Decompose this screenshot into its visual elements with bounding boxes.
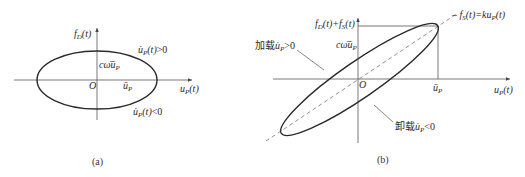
x-axis-label-a: uP(t) <box>180 83 199 96</box>
panel-b: fD(t)+fS(t) – fS(t)=kuP(t) cω̄ūP 加载u̇P>0… <box>255 9 513 166</box>
origin-label-a: O <box>89 80 96 91</box>
unloading-leader-line <box>374 105 393 122</box>
loading-leader-line <box>297 50 324 70</box>
hysteresis-figure: fD(t) u̇P(t)>0 cω̄ūP O ūP uP(t) u̇P(t)<0… <box>0 0 525 177</box>
unloading-label: 卸载u̇P<0 <box>395 120 435 134</box>
loading-label: 加载u̇P>0 <box>255 40 295 53</box>
y-axis-label-b: fD(t)+fS(t) <box>315 18 355 31</box>
lower-branch-label-a: u̇P(t)<0 <box>133 106 162 119</box>
upper-branch-label-a: u̇P(t)>0 <box>138 44 167 57</box>
y-axis-label-a: fD(t) <box>74 28 92 41</box>
elastic-line-label: – fS(t)=kuP(t) <box>451 9 506 22</box>
caption-a: (a) <box>92 156 103 168</box>
x-axis-label-b: uP(t) <box>494 84 513 97</box>
caption-b: (b) <box>377 154 389 166</box>
intercept-label-b: cω̄ūP <box>336 39 358 52</box>
intercept-label-a: cω̄ūP <box>99 59 121 72</box>
amplitude-label-a: ūP <box>123 80 133 93</box>
panel-a: fD(t) u̇P(t)>0 cω̄ūP O ūP uP(t) u̇P(t)<0… <box>14 28 199 168</box>
amplitude-label-b: ūP <box>433 82 443 95</box>
origin-label-b: O <box>359 79 366 90</box>
